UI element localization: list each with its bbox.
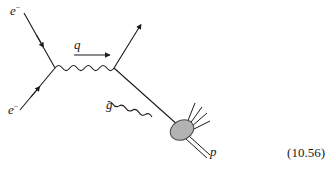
label-proton-p: p <box>210 145 217 158</box>
arrowhead-electron-top <box>37 35 43 46</box>
struck-quark-line <box>114 68 179 126</box>
gluon-wavy-line <box>108 101 152 117</box>
equation-number: (10.56) <box>287 145 325 161</box>
proton-double-line <box>186 136 210 158</box>
incoming-electron-top-line <box>24 13 55 68</box>
label-photon-momentum-q: q <box>74 38 81 51</box>
label-incoming-electron-top: e− <box>10 4 20 17</box>
outgoing-electron-line <box>114 26 140 68</box>
incoming-electron-bottom-line <box>20 68 55 110</box>
feynman-diagram-canvas <box>0 0 333 176</box>
label-incoming-electron-bottom: e− <box>8 103 18 116</box>
feynman-diagram-figure: e− e− q g p (10.56) <box>0 0 333 176</box>
virtual-photon-wavy-line <box>55 65 114 70</box>
arrowhead-electron-bottom <box>31 88 39 97</box>
label-gluon-g: g <box>106 98 113 111</box>
